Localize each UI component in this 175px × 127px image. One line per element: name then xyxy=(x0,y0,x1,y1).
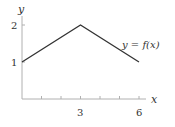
y-axis-label: y xyxy=(17,3,25,16)
xtick-label-6: 6 xyxy=(136,107,142,118)
curve-label: y = f(x) xyxy=(121,39,160,50)
xtick-label-3: 3 xyxy=(77,107,83,118)
ytick-label-1: 1 xyxy=(11,57,17,68)
chart: y x 2 1 3 6 y = f(x) xyxy=(0,0,175,127)
ytick-label-2: 2 xyxy=(11,20,17,31)
x-axis-label: x xyxy=(151,93,158,106)
